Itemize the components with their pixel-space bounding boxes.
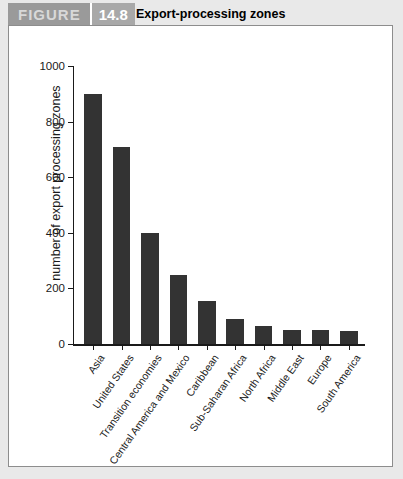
figure-banner: FIGURE 14.8: [8, 3, 135, 25]
x-tick-label: Asia: [85, 352, 107, 376]
x-tick-mark: [150, 346, 151, 350]
bar-chart: number of export processing zones 020040…: [9, 26, 394, 468]
x-tick-mark: [320, 346, 321, 350]
bar: [255, 326, 273, 344]
x-tick-mark: [264, 346, 265, 350]
figure-title: Export-processing zones: [136, 3, 285, 25]
bar: [113, 147, 131, 344]
y-tick-label: 200: [46, 282, 65, 294]
figure-label: FIGURE: [8, 3, 90, 25]
y-tick-mark: [68, 233, 73, 234]
y-axis-line: [73, 66, 74, 344]
bar: [226, 319, 244, 344]
bar: [84, 94, 102, 344]
x-tick-label: Europe: [305, 352, 334, 387]
y-tick-mark: [68, 122, 73, 123]
x-tick-mark: [207, 346, 208, 350]
figure-panel: number of export processing zones 020040…: [8, 25, 393, 467]
bar: [170, 275, 188, 345]
y-tick-mark: [68, 288, 73, 289]
x-tick-mark: [349, 346, 350, 350]
y-tick-label: 0: [59, 338, 65, 350]
x-tick-mark: [178, 346, 179, 350]
y-tick-mark: [68, 66, 73, 67]
x-tick-mark: [235, 346, 236, 350]
bar: [340, 331, 358, 344]
y-tick-label: 400: [46, 227, 65, 239]
figure-root: FIGURE 14.8 Export-processing zones numb…: [0, 0, 403, 479]
y-tick-label: 1000: [39, 60, 65, 72]
x-tick-mark: [292, 346, 293, 350]
x-tick-mark: [93, 346, 94, 350]
bar: [283, 330, 301, 344]
y-tick-label: 800: [46, 116, 65, 128]
figure-number: 14.8: [90, 3, 135, 25]
bar: [141, 233, 159, 344]
y-tick-label: 600: [46, 171, 65, 183]
bar: [312, 330, 330, 344]
bar: [198, 301, 216, 344]
y-tick-mark: [68, 177, 73, 178]
x-tick-mark: [122, 346, 123, 350]
